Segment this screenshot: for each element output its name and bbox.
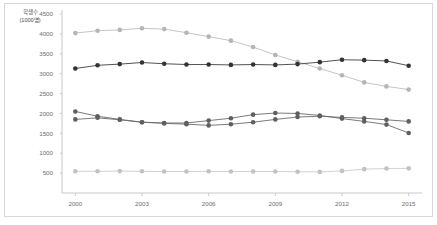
data-point (184, 30, 189, 35)
data-point (184, 62, 189, 67)
data-point (406, 87, 411, 92)
y-tick-label: 3500 (39, 50, 53, 57)
data-point (406, 131, 411, 136)
series-series-5-light-lower (73, 166, 411, 174)
series-line (75, 168, 408, 172)
series-line (75, 28, 408, 89)
series-series-2-dark (73, 57, 411, 70)
chart-figure: 학생수 (1000명) 5001000150020002500300035004… (0, 0, 437, 225)
data-point (251, 62, 256, 67)
data-point (140, 169, 145, 174)
data-point (251, 112, 256, 117)
data-point (162, 27, 167, 32)
data-point (95, 169, 100, 174)
data-point (162, 169, 167, 174)
data-point (384, 166, 389, 171)
data-point (206, 34, 211, 39)
plot-area: 50010001500200025003000350040004500 2000… (0, 0, 437, 225)
y-tick-label: 1000 (39, 149, 53, 156)
data-point (384, 84, 389, 89)
data-point (140, 120, 145, 125)
y-tick-label: 4000 (39, 30, 53, 37)
data-point (229, 122, 234, 127)
data-point (273, 169, 278, 174)
x-tick-label: 2000 (68, 200, 82, 207)
data-point (251, 169, 256, 174)
y-tick-label: 4500 (39, 10, 53, 17)
data-point (206, 123, 211, 128)
data-point (73, 31, 78, 36)
data-point (362, 58, 367, 63)
data-point (184, 122, 189, 127)
data-point (340, 73, 345, 78)
data-point (317, 66, 322, 71)
series-layer (73, 26, 411, 174)
data-point (229, 63, 234, 68)
series-series-1-light-upper (73, 26, 411, 92)
y-tick-label: 1500 (39, 130, 53, 137)
x-tick-label: 2006 (202, 200, 216, 207)
data-point (384, 59, 389, 64)
data-point (73, 66, 78, 71)
y-tick-label: 500 (43, 169, 54, 176)
data-point (273, 63, 278, 68)
series-line (75, 111, 408, 132)
x-tick-label: 2003 (135, 200, 149, 207)
data-point (406, 166, 411, 171)
data-point (162, 61, 167, 66)
data-point (140, 26, 145, 31)
data-point (317, 60, 322, 65)
series-line (75, 60, 408, 69)
x-tick-label: 2015 (402, 200, 416, 207)
y-tick-label: 3000 (39, 70, 53, 77)
data-point (295, 169, 300, 174)
data-point (251, 45, 256, 50)
data-point (340, 169, 345, 174)
x-tick-label: 2009 (268, 200, 282, 207)
data-point (117, 118, 122, 123)
data-point (340, 115, 345, 120)
data-point (206, 62, 211, 67)
data-point (73, 169, 78, 174)
data-point (273, 111, 278, 116)
data-point (117, 28, 122, 33)
y-tick-label: 2500 (39, 90, 53, 97)
data-point (229, 169, 234, 174)
data-point (384, 118, 389, 123)
x-axis-tick-labels: 200020032006200920122015 (68, 200, 416, 207)
data-point (117, 62, 122, 67)
data-point (362, 167, 367, 172)
data-point (95, 116, 100, 121)
data-point (229, 38, 234, 43)
data-point (73, 117, 78, 122)
data-point (95, 28, 100, 33)
x-tick-label: 2012 (335, 200, 349, 207)
data-point (229, 116, 234, 121)
data-point (317, 170, 322, 175)
data-point (206, 169, 211, 174)
data-point (273, 53, 278, 58)
data-point (340, 57, 345, 62)
y-tick-label: 2000 (39, 110, 53, 117)
data-point (117, 169, 122, 174)
data-point (273, 117, 278, 122)
data-point (140, 60, 145, 65)
data-point (406, 119, 411, 124)
data-point (251, 120, 256, 125)
data-point (295, 62, 300, 67)
data-point (73, 109, 78, 114)
data-point (362, 116, 367, 121)
data-point (384, 122, 389, 127)
data-point (317, 114, 322, 119)
data-point (406, 63, 411, 68)
series-series-3-mid-a (73, 109, 411, 135)
y-axis-tick-labels: 50010001500200025003000350040004500 (39, 10, 53, 176)
data-point (95, 63, 100, 68)
data-point (206, 118, 211, 123)
data-point (184, 169, 189, 174)
data-point (162, 121, 167, 126)
data-point (362, 80, 367, 85)
data-point (295, 115, 300, 120)
